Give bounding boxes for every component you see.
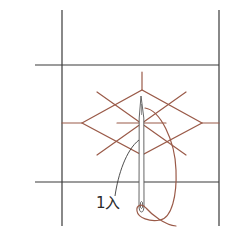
stitch-diagram [0, 0, 244, 247]
needle-icon [139, 96, 144, 212]
step-label: 1入 [96, 196, 119, 211]
label-pointer-line [115, 140, 139, 196]
fabric-grid [35, 10, 219, 226]
